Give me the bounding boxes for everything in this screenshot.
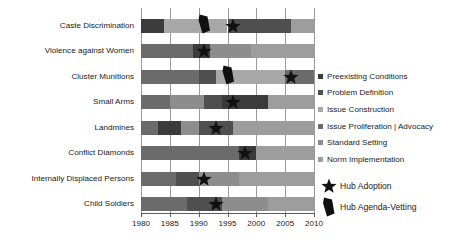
category-label: Cluster Munitions: [0, 72, 134, 82]
bar-segment: [256, 146, 314, 160]
bar-segment: [164, 19, 227, 33]
marker-legend: Hub AdoptionHub Agenda-Vetting: [318, 175, 457, 217]
x-tick-label: 2000: [241, 219, 271, 228]
bar-segment: [239, 146, 256, 160]
bar-segment: [141, 44, 193, 58]
x-tick-label: 2010: [299, 219, 329, 228]
legend-swatch-icon: [318, 157, 323, 162]
x-tick-label: 1990: [184, 219, 214, 228]
bar-segment: [268, 197, 314, 211]
marker-legend-item: Hub Adoption: [318, 175, 457, 196]
bar-segment: [141, 172, 176, 186]
bar-segment: [210, 44, 250, 58]
bar-segment: [204, 95, 221, 109]
bar-segment: [141, 95, 170, 109]
bar-row: [141, 95, 314, 109]
x-tick: [199, 213, 200, 217]
bar-segment: [222, 197, 268, 211]
category-label: Caste Discrimination: [0, 21, 134, 31]
star-icon: [318, 178, 340, 194]
x-tick: [314, 213, 315, 217]
bar-segment: [193, 44, 210, 58]
bar-segment: [199, 121, 234, 135]
bar-segment: [251, 44, 314, 58]
x-tick: [228, 213, 229, 217]
legend-swatch-icon: [318, 74, 323, 79]
legend-swatch-icon: [318, 90, 323, 95]
series-legend: Preexisting ConditionsProblem Definition…: [318, 68, 457, 168]
category-label: Small Arms: [0, 97, 134, 107]
legend-swatch-icon: [318, 107, 323, 112]
bar-row: [141, 197, 314, 211]
agenda-vetting-wedge-icon: [318, 197, 340, 217]
category-label: Conflict Diamonds: [0, 148, 134, 158]
bar-row: [141, 121, 314, 135]
legend-item: Issue Construction: [318, 101, 457, 118]
x-tick: [170, 213, 171, 217]
marker-legend-item: Hub Agenda-Vetting: [318, 196, 457, 217]
x-tick-label: 1985: [155, 219, 185, 228]
bar-segment: [199, 70, 216, 84]
marker-legend-label: Hub Adoption: [340, 181, 392, 191]
bar-row: [141, 19, 314, 33]
bar-segment: [141, 197, 187, 211]
legend-swatch-icon: [318, 124, 323, 129]
x-tick-label: 1980: [126, 219, 156, 228]
bar-segment: [170, 95, 205, 109]
bar-segment: [222, 95, 268, 109]
bar-row: [141, 44, 314, 58]
bar-row: [141, 70, 314, 84]
legend-label: Problem Definition: [327, 88, 393, 97]
category-label: Landmines: [0, 123, 134, 133]
legend-label: Issue Construction: [327, 105, 394, 114]
x-tick-label: 1995: [213, 219, 243, 228]
gridline-2010: [314, 8, 315, 213]
bar-segment: [141, 70, 199, 84]
bar-segment: [228, 19, 291, 33]
bar-segment: [181, 121, 198, 135]
bar-segment: [187, 197, 222, 211]
legend-item: Norm Implementation: [318, 151, 457, 168]
bar-segment: [239, 172, 314, 186]
legend-label: Issue Proliferation | Advocacy: [327, 122, 433, 131]
bar-segment: [158, 121, 181, 135]
legend-item: Problem Definition: [318, 85, 457, 102]
bar-segment: [233, 121, 314, 135]
category-label: Violence against Women: [0, 46, 134, 56]
bar-segment: [141, 146, 239, 160]
bar-segment: [199, 172, 239, 186]
legend-label: Standard Setting: [327, 138, 387, 147]
plot-area: [141, 8, 314, 213]
category-axis-labels: Caste DiscriminationViolence against Wom…: [0, 0, 138, 213]
bar-segment: [285, 70, 314, 84]
bar-segment: [176, 172, 199, 186]
bar-segment: [291, 19, 314, 33]
x-tick-label: 2005: [270, 219, 300, 228]
bar-segment: [268, 95, 314, 109]
category-label: Internally Displaced Persons: [0, 174, 134, 184]
legend-label: Norm Implementation: [327, 155, 404, 164]
bar-segment: [141, 121, 158, 135]
legend-label: Preexisting Conditions: [327, 72, 408, 81]
stacked-timeline-chart: Caste DiscriminationViolence against Wom…: [0, 0, 457, 242]
x-tick: [285, 213, 286, 217]
bar-segment: [216, 70, 285, 84]
legend-item: Standard Setting: [318, 134, 457, 151]
marker-legend-label: Hub Agenda-Vetting: [340, 202, 416, 212]
bar-row: [141, 172, 314, 186]
category-label: Child Soldiers: [0, 199, 134, 209]
legend-item: Preexisting Conditions: [318, 68, 457, 85]
x-tick: [141, 213, 142, 217]
legend-swatch-icon: [318, 140, 323, 145]
legend-item: Issue Proliferation | Advocacy: [318, 118, 457, 135]
bar-row: [141, 146, 314, 160]
x-tick: [256, 213, 257, 217]
bar-segment: [141, 19, 164, 33]
